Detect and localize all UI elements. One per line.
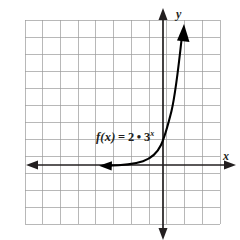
- multiplication-dot: •: [137, 130, 142, 144]
- coefficient: 2: [128, 130, 134, 144]
- x-axis-left-arrowhead: [26, 161, 38, 170]
- x-axis-label: x: [223, 150, 229, 162]
- y-axis-label: y: [176, 8, 181, 20]
- function-curve: [99, 24, 190, 171]
- curve-top-arrowhead: [177, 24, 190, 42]
- function-name: f(x): [96, 130, 116, 144]
- equals-sign: =: [118, 130, 125, 144]
- curve-left-arrowhead: [99, 161, 112, 170]
- y-axis-top-arrowhead: [159, 8, 168, 20]
- exponent: x: [150, 129, 154, 138]
- function-equation-label: f(x)=2•3x: [96, 131, 155, 144]
- exponential-function-graph: y x f(x)=2•3x: [0, 0, 240, 240]
- y-axis-bottom-arrowhead: [159, 228, 168, 240]
- y-axis: [159, 8, 168, 240]
- x-axis: [26, 161, 236, 170]
- grid-lines: [25, 20, 220, 224]
- coordinate-plane: [0, 0, 240, 240]
